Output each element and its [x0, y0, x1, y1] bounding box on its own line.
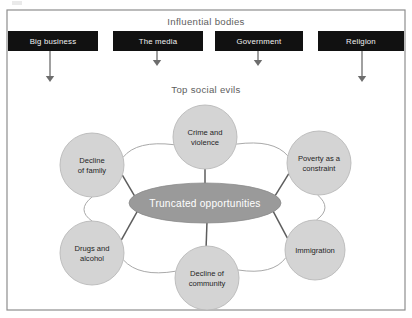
social-evil-label-poverty-constraint-line-1: constraint: [303, 164, 337, 173]
social-evil-label-crime-and-violence-line-0: Crime and: [187, 128, 222, 137]
truncated-opportunities-label: Truncated opportunities: [149, 198, 260, 209]
social-evil-label-immigration-line-0: Immigration: [295, 246, 335, 255]
social-evil-label-crime-and-violence-line-1: violence: [191, 138, 219, 147]
social-evil-label-decline-of-family-line-1: of family: [78, 166, 106, 175]
influential-body-label-1: The media: [139, 37, 178, 46]
diagram-canvas: Influential bodies Top social evils Big …: [0, 0, 412, 318]
influential-body-label-3: Religion: [346, 37, 376, 46]
influential-body-label-0: Big business: [30, 37, 77, 46]
social-evils-diagram: Influential bodies Top social evils Big …: [0, 0, 412, 318]
social-evil-label-decline-of-family-line-0: Decline: [79, 156, 104, 165]
social-evil-label-drugs-and-alcohol-line-0: Drugs and: [74, 244, 109, 253]
social-evil-label-poverty-constraint-line-0: Poverty as a: [298, 154, 341, 163]
center-node-group: Truncated opportunities: [129, 183, 281, 223]
scan-artifact: [12, 1, 22, 5]
spoke-link-decline-of-community: [206, 222, 207, 246]
social-evil-label-decline-of-community-line-1: community: [189, 279, 226, 288]
social-evil-label-decline-of-community-line-0: Decline of: [190, 269, 225, 278]
influential-bodies-title: Influential bodies: [167, 16, 244, 27]
top-social-evils-title: Top social evils: [171, 84, 240, 95]
influential-body-label-2: Government: [237, 37, 283, 46]
social-evil-label-drugs-and-alcohol-line-1: alcohol: [80, 254, 104, 263]
